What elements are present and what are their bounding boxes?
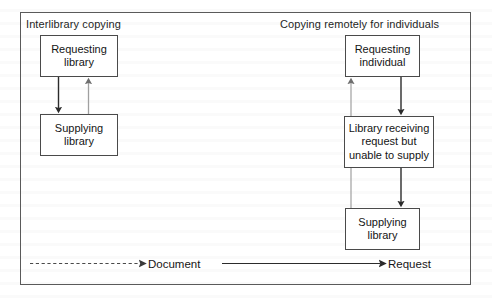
node-supplying-library-left: Supplying library xyxy=(40,114,118,156)
node-line-2: request but xyxy=(361,135,416,149)
node-line-1: Requesting xyxy=(51,43,107,57)
legend-label-request: Request xyxy=(388,258,431,270)
node-requesting-library: Requesting library xyxy=(40,35,118,77)
node-line-1: Supplying xyxy=(358,216,406,230)
node-line-3: unable to supply xyxy=(349,149,429,163)
node-requesting-individual: Requesting individual xyxy=(345,35,420,77)
section-title-interlibrary: Interlibrary copying xyxy=(26,18,121,30)
node-library-unable-to-supply: Library receiving request but unable to … xyxy=(344,116,434,168)
node-line-1: Library receiving xyxy=(349,122,430,136)
legend-label-document: Document xyxy=(148,258,200,270)
node-line-2: library xyxy=(64,135,94,149)
section-title-remote: Copying remotely for individuals xyxy=(280,18,439,30)
node-supplying-library-right: Supplying library xyxy=(345,208,420,250)
node-line-2: library xyxy=(368,229,398,243)
node-line-1: Requesting xyxy=(355,43,411,57)
node-line-1: Supplying xyxy=(55,122,103,136)
node-line-2: library xyxy=(64,56,94,70)
node-line-2: individual xyxy=(360,56,406,70)
